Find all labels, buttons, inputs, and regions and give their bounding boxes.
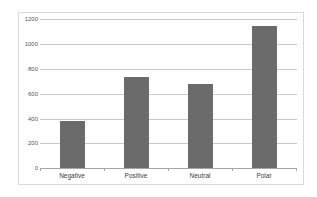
x-tick-label: Polar: [232, 172, 296, 179]
bar-neutral: [188, 84, 213, 168]
x-tick: [40, 168, 41, 171]
y-tick-label: 200: [8, 140, 38, 146]
bar-positive: [124, 77, 149, 168]
x-tick-label: Positive: [104, 172, 168, 179]
y-tick-label: 0: [8, 165, 38, 171]
x-tick-label: Negative: [40, 172, 104, 179]
x-tick-label: Neutral: [168, 172, 232, 179]
bar-negative: [60, 121, 85, 168]
plot-area: [40, 19, 297, 168]
x-tick: [168, 168, 169, 171]
y-tick-label: 1200: [8, 16, 38, 22]
x-tick: [104, 168, 105, 171]
y-tick-label: 800: [8, 66, 38, 72]
y-tick-label: 600: [8, 91, 38, 97]
y-tick-label: 400: [8, 116, 38, 122]
gridline: [40, 19, 297, 20]
x-tick: [232, 168, 233, 171]
y-tick-label: 1000: [8, 41, 38, 47]
x-tick: [296, 168, 297, 171]
bar-polar: [252, 26, 277, 168]
